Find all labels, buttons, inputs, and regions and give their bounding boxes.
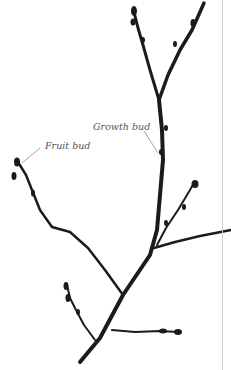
- growth-bud-label: Growth bud: [93, 121, 150, 132]
- fruit-bud-leader-line: [22, 148, 40, 163]
- fruit-bud-label: Fruit bud: [45, 140, 90, 151]
- growth-bud-leader-line: [144, 131, 158, 153]
- branch-illustration: Growth bud Fruit bud: [0, 0, 231, 370]
- branch-drawing: [0, 0, 231, 370]
- right-margin-rule: [222, 0, 223, 370]
